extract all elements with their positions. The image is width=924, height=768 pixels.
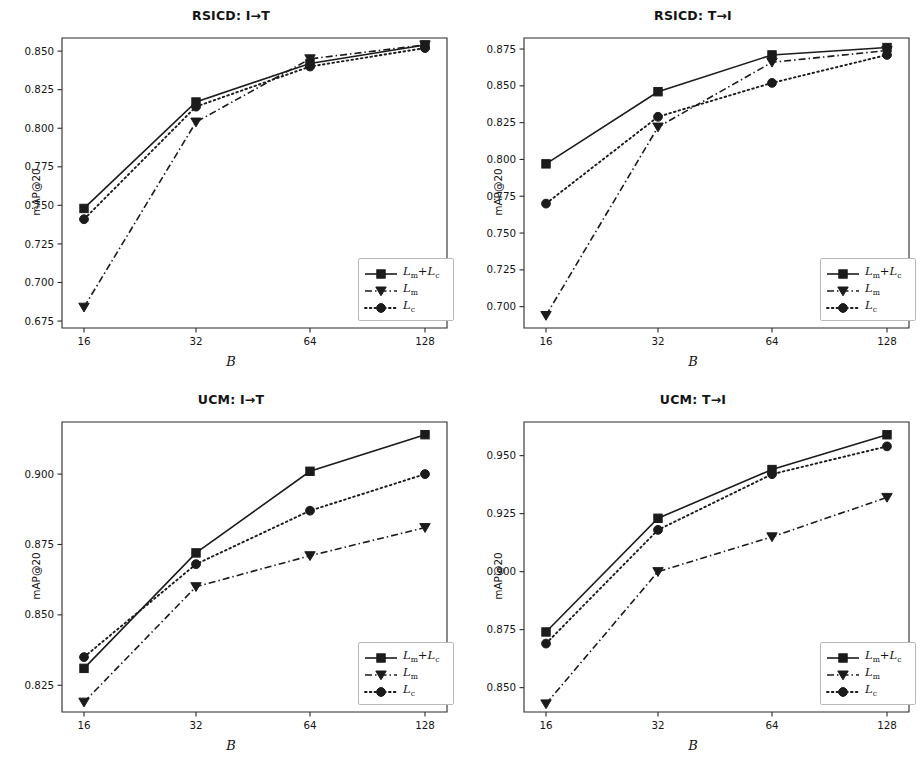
legend: Lm+LcLmLc <box>820 642 916 705</box>
y-tick-label: 0.900 <box>25 468 54 480</box>
legend-label: Lm+Lc <box>403 264 439 280</box>
data-point-marker <box>79 698 89 707</box>
data-point-marker <box>542 628 550 636</box>
legend-item: Lc <box>826 682 908 699</box>
legend-sample-triangle-icon <box>364 283 398 297</box>
y-tick-label: 0.850 <box>25 45 54 57</box>
data-point-marker <box>542 639 551 648</box>
data-point-marker <box>421 44 430 53</box>
legend-item: Lc <box>826 298 908 315</box>
legend-label: Lm <box>865 665 880 681</box>
chart-panel-ucm-i2t: UCM: I→T mAP@20 0.8250.8500.8750.9001632… <box>0 384 462 768</box>
data-point-marker <box>653 123 663 132</box>
data-point-marker <box>306 467 314 475</box>
legend-sample-circle-icon <box>826 300 860 314</box>
series-line-Lm-plus-Lc <box>546 48 887 164</box>
data-point-marker <box>883 431 891 439</box>
x-axis-label: B <box>0 354 462 369</box>
x-tick-label: 16 <box>77 719 90 731</box>
legend-label: Lm <box>865 281 880 297</box>
data-point-marker <box>191 118 201 127</box>
legend-label: Lm <box>403 281 418 297</box>
legend-sample-circle-icon <box>364 300 398 314</box>
series-line-Lc <box>546 55 887 204</box>
legend-sample-circle-icon <box>826 684 860 698</box>
x-tick-label: 128 <box>415 335 435 347</box>
y-tick-label: 0.900 <box>487 565 516 577</box>
x-tick-label: 64 <box>765 719 778 731</box>
figure-grid: RSICD: I→T mAP@20 0.6750.7000.7250.7500.… <box>0 0 924 768</box>
data-point-marker <box>80 653 89 662</box>
chart-panel-rsicd-i2t: RSICD: I→T mAP@20 0.6750.7000.7250.7500.… <box>0 0 462 384</box>
data-point-marker <box>192 560 201 569</box>
plot-area: 0.6750.7000.7250.7500.7750.8000.8250.850… <box>0 0 462 384</box>
legend-label: Lc <box>403 682 415 698</box>
x-tick-label: 16 <box>539 335 552 347</box>
legend-label: Lm+Lc <box>865 648 901 664</box>
y-tick-label: 0.675 <box>25 315 54 327</box>
legend-label: Lm+Lc <box>865 264 901 280</box>
data-point-marker <box>654 525 663 534</box>
y-tick-label: 0.725 <box>25 238 54 250</box>
series-line-Lc <box>84 48 425 219</box>
legend-item: Lc <box>364 682 446 699</box>
legend-item: Lm+Lc <box>826 264 908 281</box>
x-axis-label: B <box>0 738 462 753</box>
series-line-Lm-plus-Lc <box>84 435 425 669</box>
legend: Lm+LcLmLc <box>358 258 454 321</box>
y-tick-label: 0.725 <box>487 263 516 275</box>
series-line-Lm-plus-Lc <box>546 435 887 632</box>
legend-label: Lm <box>403 665 418 681</box>
chart-panel-rsicd-t2i: RSICD: T→I mAP@20 0.7000.7250.7500.7750.… <box>462 0 924 384</box>
legend-sample-square-icon <box>364 650 398 664</box>
data-point-marker <box>768 470 777 479</box>
legend-label: Lc <box>403 298 415 314</box>
legend-item: Lc <box>364 298 446 315</box>
y-tick-label: 0.825 <box>25 679 54 691</box>
data-point-marker <box>768 78 777 87</box>
data-point-marker <box>79 303 89 312</box>
legend-item: Lm+Lc <box>364 264 446 281</box>
series-line-Lm-plus-Lc <box>84 45 425 209</box>
data-point-marker <box>192 102 201 111</box>
y-tick-label: 0.775 <box>25 160 54 172</box>
plot-area: 0.8250.8500.8750.900163264128 <box>0 384 462 768</box>
data-point-marker <box>305 552 315 561</box>
data-point-marker <box>541 700 551 709</box>
y-tick-label: 0.800 <box>487 153 516 165</box>
data-point-marker <box>542 160 550 168</box>
y-tick-label: 0.875 <box>487 43 516 55</box>
data-point-marker <box>306 506 315 515</box>
y-tick-label: 0.875 <box>487 623 516 635</box>
x-axis-label: B <box>462 738 924 753</box>
x-tick-label: 64 <box>303 335 316 347</box>
y-tick-label: 0.700 <box>25 276 54 288</box>
legend-sample-square-icon <box>826 650 860 664</box>
y-tick-label: 0.825 <box>487 116 516 128</box>
plot-area: 0.8500.8750.9000.9250.950163264128 <box>462 384 924 768</box>
legend-item: Lm <box>364 665 446 682</box>
x-tick-label: 32 <box>189 335 202 347</box>
legend-sample-triangle-icon <box>364 667 398 681</box>
series-line-Lc <box>84 474 425 657</box>
data-point-marker <box>882 493 892 502</box>
y-tick-label: 0.950 <box>487 449 516 461</box>
y-tick-label: 0.850 <box>487 681 516 693</box>
data-point-marker <box>80 204 88 212</box>
y-tick-label: 0.925 <box>487 507 516 519</box>
x-tick-label: 128 <box>877 335 897 347</box>
x-tick-label: 16 <box>77 335 90 347</box>
data-point-marker <box>883 51 892 60</box>
y-tick-label: 0.800 <box>25 122 54 134</box>
y-tick-label: 0.750 <box>25 199 54 211</box>
data-point-marker <box>542 199 551 208</box>
chart-panel-ucm-t2i: UCM: T→I mAP@20 0.8500.8750.9000.9250.95… <box>462 384 924 768</box>
y-tick-label: 0.850 <box>487 79 516 91</box>
data-point-marker <box>883 442 892 451</box>
data-point-marker <box>653 568 663 577</box>
plot-area: 0.7000.7250.7500.7750.8000.8250.8500.875… <box>462 0 924 384</box>
y-tick-label: 0.775 <box>487 190 516 202</box>
series-line-Lc <box>546 446 887 643</box>
legend-sample-triangle-icon <box>826 667 860 681</box>
x-tick-label: 128 <box>877 719 897 731</box>
